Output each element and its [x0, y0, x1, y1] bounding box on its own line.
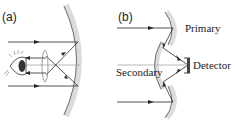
primary-label: Primary: [185, 23, 220, 34]
primary-mirror-a: [66, 5, 79, 116]
panel-a-label: (a): [2, 11, 17, 23]
eye-icon: [4, 50, 26, 76]
eyepiece-lens: [42, 50, 48, 82]
panel-b-label: (b): [118, 11, 133, 23]
telescope-diagram: (a) (b) Primary Secondary Detector: [0, 0, 235, 121]
detector-label: Detector: [193, 60, 231, 71]
secondary-label: Secondary: [116, 67, 162, 78]
panel-b-graphics: [117, 12, 190, 118]
detector-bracket: [187, 58, 190, 73]
